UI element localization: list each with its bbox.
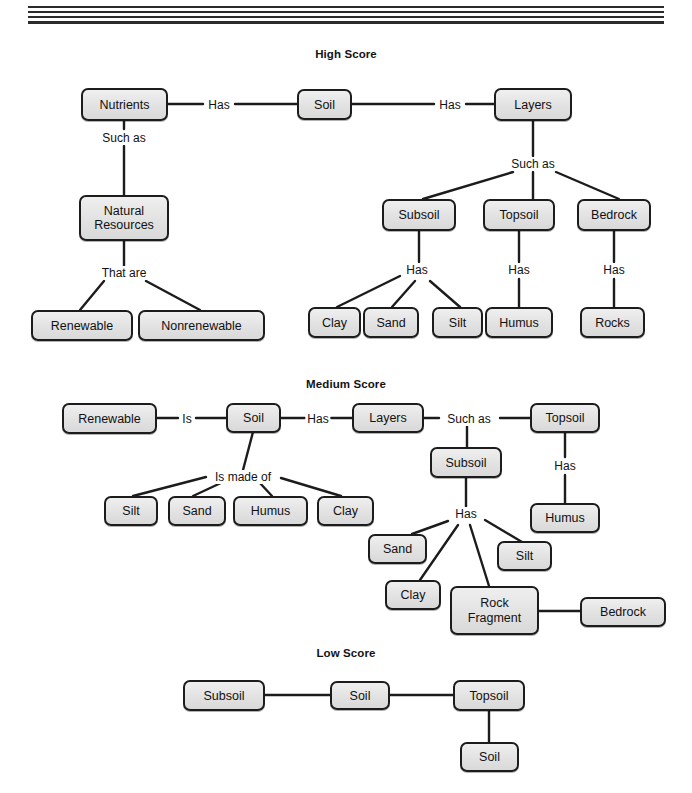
node-low-subsoil[interactable]: Subsoil: [183, 680, 265, 711]
page-top-rule-1: [28, 6, 664, 8]
page-top-rule-4: [28, 21, 664, 24]
node-medium-silt-subsoil[interactable]: Silt: [497, 541, 552, 571]
node-medium-subsoil[interactable]: Subsoil: [430, 447, 502, 478]
node-high-humus[interactable]: Humus: [485, 307, 553, 338]
link-label-high-nutrients-soil: Has: [206, 98, 231, 112]
node-high-layers[interactable]: Layers: [494, 88, 572, 121]
section-title-medium-score: Medium Score: [306, 378, 386, 390]
link-label-high-bedrock-rocks: Has: [601, 263, 626, 277]
node-medium-sand-left[interactable]: Sand: [168, 496, 226, 526]
section-title-high-score: High Score: [315, 48, 377, 60]
node-high-rocks[interactable]: Rocks: [580, 307, 645, 338]
node-medium-bedrock[interactable]: Bedrock: [580, 597, 666, 627]
node-medium-topsoil[interactable]: Topsoil: [530, 403, 600, 433]
link-label-medium-layers-topsoil: Such as: [445, 412, 492, 426]
node-low-soil-bottom[interactable]: Soil: [460, 742, 519, 772]
node-label-line-2: Fragment: [468, 611, 522, 626]
node-low-soil[interactable]: Soil: [330, 681, 390, 710]
node-high-sand[interactable]: Sand: [363, 307, 419, 338]
node-label-line-1: Rock: [480, 596, 508, 611]
node-medium-humus-left[interactable]: Humus: [233, 496, 308, 526]
node-high-renewable[interactable]: Renewable: [31, 310, 133, 341]
node-high-topsoil[interactable]: Topsoil: [483, 199, 555, 231]
link-label-medium-renewable-soil: Is: [180, 412, 193, 426]
node-medium-clay-subsoil[interactable]: Clay: [385, 580, 441, 610]
concept-map-page: High Score Nutrients Soil Layers Natural…: [0, 0, 692, 793]
node-high-soil[interactable]: Soil: [297, 89, 352, 120]
node-high-nonrenewable[interactable]: Nonrenewable: [138, 310, 265, 341]
node-medium-soil[interactable]: Soil: [226, 403, 281, 433]
section-title-low-score: Low Score: [316, 647, 375, 659]
link-label-high-that-are: That are: [100, 266, 149, 280]
node-medium-rock-fragment[interactable]: Rock Fragment: [450, 586, 539, 635]
node-medium-renewable[interactable]: Renewable: [62, 403, 157, 434]
link-label-medium-topsoil-humus: Has: [552, 459, 577, 473]
node-medium-humus-right[interactable]: Humus: [530, 503, 600, 533]
link-label-medium-is-made-of: Is made of: [213, 470, 273, 484]
node-high-subsoil[interactable]: Subsoil: [382, 199, 456, 231]
link-label-medium-subsoil-children: Has: [453, 507, 478, 521]
node-label-line-1: Natural: [104, 204, 144, 219]
node-high-natural-resources[interactable]: Natural Resources: [79, 195, 169, 241]
link-label-high-soil-layers: Has: [437, 98, 462, 112]
link-label-high-topsoil-humus: Has: [506, 263, 531, 277]
link-label-high-layers-children: Such as: [509, 157, 556, 171]
node-medium-silt-left[interactable]: Silt: [104, 496, 158, 526]
page-top-rule-3: [28, 16, 664, 18]
page-top-rule-2: [28, 11, 664, 13]
node-low-topsoil[interactable]: Topsoil: [453, 680, 525, 711]
node-medium-layers[interactable]: Layers: [352, 403, 424, 433]
node-medium-clay-left[interactable]: Clay: [317, 496, 374, 526]
link-label-high-nutrients-natural-resources: Such as: [100, 131, 147, 145]
node-high-silt[interactable]: Silt: [432, 307, 483, 338]
link-label-high-subsoil-children: Has: [404, 263, 429, 277]
node-high-bedrock[interactable]: Bedrock: [577, 199, 651, 231]
node-high-clay[interactable]: Clay: [308, 307, 361, 338]
link-label-medium-soil-layers: Has: [305, 412, 330, 426]
node-high-nutrients[interactable]: Nutrients: [81, 88, 168, 121]
node-medium-sand-subsoil[interactable]: Sand: [368, 534, 427, 564]
node-label-line-2: Resources: [94, 218, 154, 233]
